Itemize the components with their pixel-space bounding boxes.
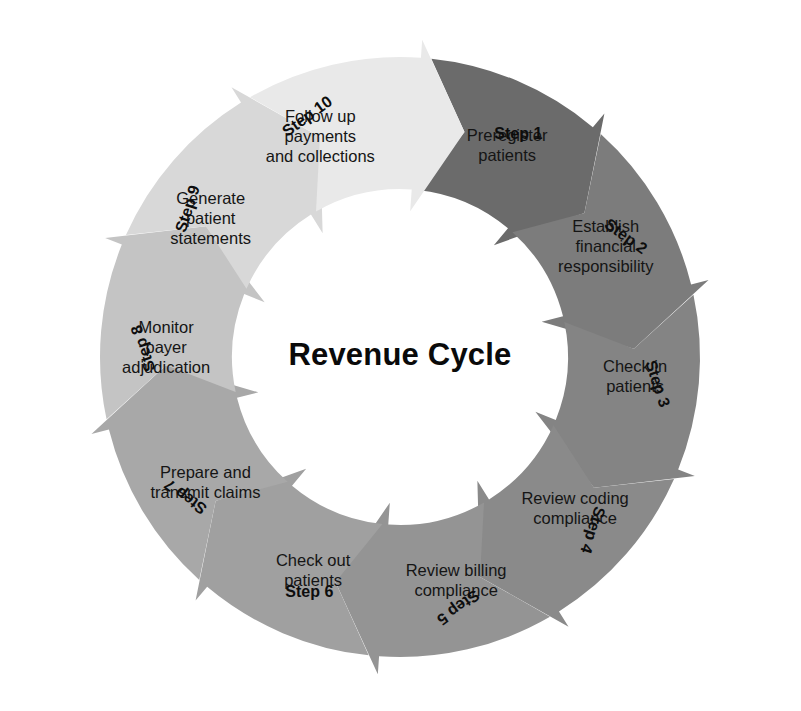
step-text-10: and collections: [266, 147, 375, 165]
cycle-svg-canvas: PreregisterpatientsStep 1Establishfinanc…: [0, 0, 801, 711]
step-text-1: patients: [478, 146, 536, 164]
step-number-6: Step 6: [285, 583, 333, 600]
step-text-2: responsibility: [558, 257, 654, 275]
step-text-5: Review billing: [406, 561, 507, 579]
step-number-1: Step 1: [494, 125, 542, 142]
step-text-4: Review coding: [521, 489, 628, 507]
step-text-8: adjudication: [122, 358, 210, 376]
step-text-6: Check out: [276, 551, 351, 569]
revenue-cycle-diagram: PreregisterpatientsStep 1Establishfinanc…: [0, 0, 801, 711]
page-title: Revenue Cycle: [288, 337, 511, 372]
step-text-5: compliance: [414, 581, 497, 599]
